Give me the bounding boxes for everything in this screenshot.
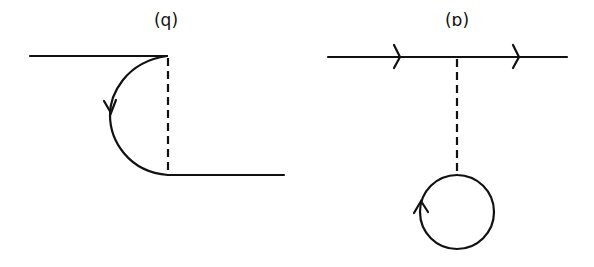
loop-circle <box>420 175 494 249</box>
semicircle-arc <box>110 56 168 175</box>
left-panel <box>30 56 284 175</box>
right-panel <box>328 45 567 249</box>
diagram-canvas <box>0 0 594 267</box>
